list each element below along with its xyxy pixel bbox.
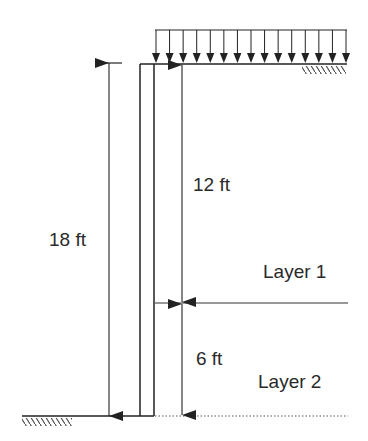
ground-hatch-front [22, 418, 72, 426]
label-layer2: Layer 2 [258, 372, 321, 391]
label-total-height: 18 ft [49, 230, 86, 249]
surcharge-arrows [152, 30, 350, 63]
label-layer1: Layer 1 [263, 262, 326, 281]
retaining-wall [140, 64, 154, 416]
dimension-18ft [97, 63, 122, 416]
surcharge-load [152, 30, 350, 63]
ground-hatch-top [302, 66, 346, 74]
label-lower-depth: 6 ft [196, 349, 222, 368]
label-upper-depth: 12 ft [193, 175, 230, 194]
